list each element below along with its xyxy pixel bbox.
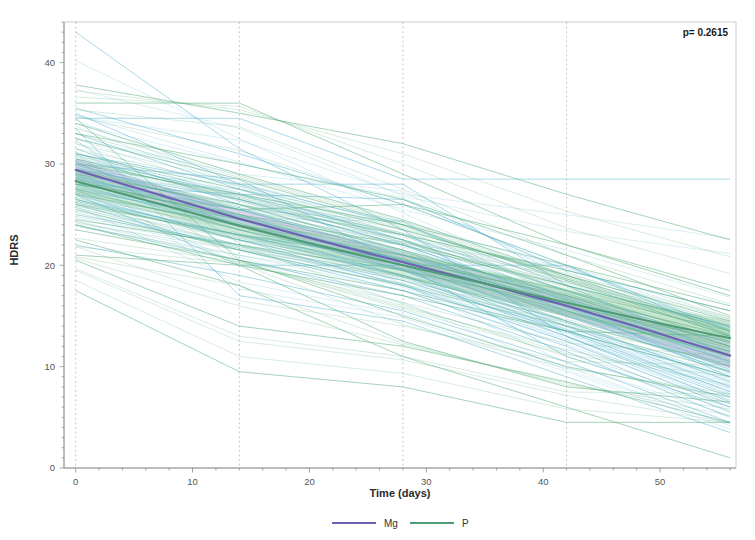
hdrs-spaghetti-plot: 01020304050 010203040 Time (days) HDRS p… <box>0 0 755 540</box>
x-tick-label-30: 30 <box>421 476 432 487</box>
y-tick-label-30: 30 <box>44 158 55 169</box>
p-value-annotation: p= 0.2615 <box>683 27 729 38</box>
x-tick-label-40: 40 <box>538 476 549 487</box>
y-axis-title: HDRS <box>8 234 20 265</box>
x-axis-title: Time (days) <box>370 487 431 499</box>
legend-label-p: P <box>462 518 469 529</box>
x-tick-label-50: 50 <box>655 476 666 487</box>
legend-label-mg: Mg <box>384 518 398 529</box>
x-tick-label-20: 20 <box>304 476 315 487</box>
y-tick-label-0: 0 <box>50 462 55 473</box>
x-tick-label-0: 0 <box>73 476 78 487</box>
y-tick-label-40: 40 <box>44 57 55 68</box>
x-tick-label-10: 10 <box>187 476 198 487</box>
chart-figure: 01020304050 010203040 Time (days) HDRS p… <box>0 0 755 540</box>
y-tick-label-20: 20 <box>44 260 55 271</box>
plot-panel <box>64 22 736 468</box>
y-tick-label-10: 10 <box>44 361 55 372</box>
